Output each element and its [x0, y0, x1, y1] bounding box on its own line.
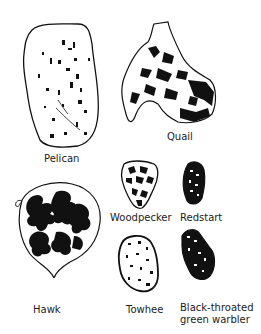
warbler-specimen — [178, 228, 218, 282]
woodpecker-label: Woodpecker — [110, 212, 172, 224]
woodpecker-specimen — [118, 158, 162, 212]
warbler-label-line1: Black-throated — [180, 302, 253, 314]
towhee-shape-icon — [116, 233, 162, 295]
towhee-label: Towhee — [126, 304, 163, 316]
warbler-shape-icon — [178, 228, 218, 282]
warbler-label: Black-throated green warbler — [180, 302, 253, 326]
woodpecker-shape-icon — [118, 158, 162, 212]
redstart-shape-icon — [180, 160, 208, 206]
hawk-shape-icon — [12, 178, 104, 278]
hawk-label: Hawk — [33, 304, 61, 316]
warbler-label-line2: green warbler — [180, 314, 253, 326]
quail-shape-icon — [118, 18, 220, 128]
pelican-shape-icon — [18, 18, 104, 150]
towhee-specimen — [116, 233, 162, 295]
quail-specimen — [118, 18, 220, 128]
redstart-specimen — [180, 160, 208, 206]
pelican-specimen — [18, 18, 104, 150]
redstart-label: Redstart — [180, 212, 222, 224]
hawk-specimen — [12, 178, 104, 278]
pelican-label: Pelican — [44, 153, 79, 165]
quail-label: Quail — [167, 131, 193, 143]
